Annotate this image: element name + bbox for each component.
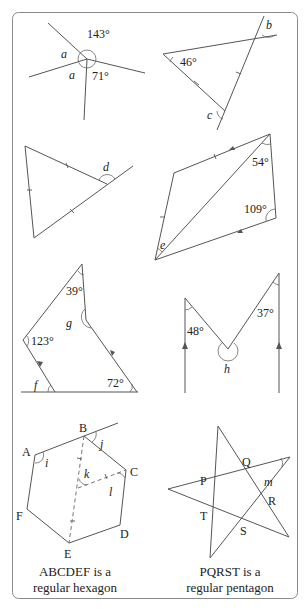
angle-label-143: 143°: [87, 27, 110, 41]
diagram-parallel-lines-h: 48° 37° h: [182, 273, 282, 393]
vertex-label-B: B: [79, 421, 87, 435]
vertex-label-P: P: [200, 474, 207, 488]
diagram-triangle-b-c: 46° b c: [163, 16, 277, 130]
var-label-k: k: [84, 467, 90, 481]
vertex-label-A: A: [22, 445, 31, 459]
angle-label-37: 37°: [257, 306, 274, 320]
var-label-f: f: [34, 378, 39, 392]
vertex-label-F: F: [16, 509, 23, 523]
angle-label-123: 123°: [31, 334, 54, 348]
pentagon-caption-line2: regular pentagon: [186, 580, 274, 595]
var-label-m: m: [264, 475, 273, 489]
var-label-h: h: [224, 362, 230, 376]
diagram-pentagon-f-g: 39° g 123° f 72°: [21, 264, 138, 392]
pentagon-caption-line1: PQRST is a: [199, 564, 260, 579]
angle-label-72: 72°: [107, 376, 124, 390]
angle-label-39: 39°: [66, 284, 83, 298]
var-label-b: b: [266, 18, 272, 32]
var-label-i: i: [45, 456, 48, 470]
var-label-e: e: [160, 238, 166, 252]
vertex-label-C: C: [130, 465, 138, 479]
var-label-g: g: [66, 316, 72, 330]
diagram-equilateral-triangle-d: d: [25, 146, 133, 238]
angle-label-71: 71°: [92, 69, 109, 83]
var-label-d: d: [103, 160, 110, 174]
vertex-label-T: T: [200, 509, 208, 523]
diagram-regular-hexagon: A B C D E F i j k l ABCDEF is a regular …: [16, 421, 138, 595]
angle-label-109: 109°: [244, 202, 267, 216]
vertex-label-Q: Q: [242, 455, 251, 469]
diagram-regular-pentagon-star: P Q R S T m PQRST is a regular pentagon: [168, 426, 290, 595]
geometry-exercise-sheet: 143° a a 71° 46° b c d: [0, 0, 306, 611]
vertex-label-D: D: [120, 527, 129, 541]
vertex-label-E: E: [64, 547, 71, 561]
hexagon-caption-line1: ABCDEF is a: [39, 564, 111, 579]
var-label-c: c: [207, 108, 213, 122]
var-label-l: l: [109, 485, 113, 499]
vertex-label-S: S: [240, 524, 247, 538]
angle-label-54: 54°: [252, 155, 269, 169]
var-label-a-lower: a: [69, 68, 75, 82]
var-label-j: j: [98, 437, 104, 451]
var-label-a-upper: a: [61, 47, 67, 61]
hexagon-caption-line2: regular hexagon: [33, 580, 118, 595]
frame-border: [13, 13, 298, 599]
diagram-angles-at-point: 143° a a 71°: [29, 23, 145, 120]
angle-label-48: 48°: [187, 324, 204, 338]
vertex-label-R: R: [268, 494, 276, 508]
angle-label-46: 46°: [180, 55, 197, 69]
diagram-quadrilateral-e: 54° 109° e: [155, 134, 276, 260]
